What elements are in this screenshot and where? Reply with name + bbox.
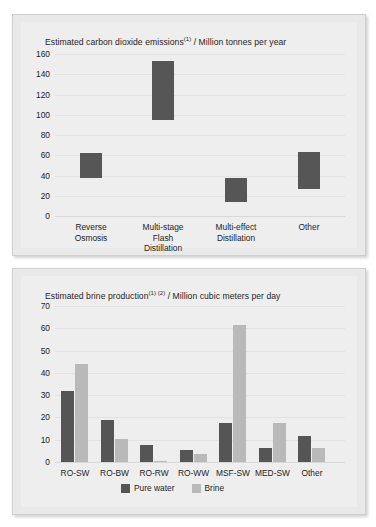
gridline bbox=[55, 95, 345, 96]
y-axis-tick-label: 80 bbox=[41, 130, 50, 140]
chart-title-brine-main: Estimated brine production bbox=[45, 291, 149, 301]
chart-title-co2-footnote: (1) bbox=[184, 36, 191, 42]
bar-brine bbox=[154, 461, 167, 462]
y-axis-tick-label: 160 bbox=[36, 49, 50, 59]
chart-title-brine-units: / Million cubic meters per day bbox=[168, 291, 281, 301]
chart-title-co2: Estimated carbon dioxide emissions(1) / … bbox=[45, 36, 286, 47]
legend-label: Brine bbox=[205, 483, 225, 493]
y-axis-tick-label: 0 bbox=[45, 457, 50, 467]
y-axis-tick-label: 30 bbox=[41, 390, 50, 400]
bar-brine bbox=[115, 439, 128, 462]
range-bar bbox=[152, 61, 174, 120]
y-axis-tick-label: 20 bbox=[41, 191, 50, 201]
x-label-multi-effect-distillation: Multi-effect Distillation bbox=[194, 222, 278, 243]
x-label-other: Other bbox=[282, 468, 342, 478]
x-axis-baseline bbox=[55, 462, 345, 463]
chart-legend-brine: Pure waterBrine bbox=[121, 483, 236, 493]
bar-group bbox=[180, 306, 208, 462]
bar-pure-water bbox=[140, 445, 153, 462]
y-axis-tick-label: 40 bbox=[41, 368, 50, 378]
y-axis-tick-label: 140 bbox=[36, 69, 50, 79]
chart-title-co2-main: Estimated carbon dioxide emissions bbox=[45, 37, 184, 47]
chart-title-brine: Estimated brine production(1) (2) / Mill… bbox=[45, 290, 280, 301]
legend-item: Brine bbox=[192, 483, 225, 493]
x-label-line: Distillation bbox=[121, 243, 205, 254]
y-axis-tick-label: 20 bbox=[41, 412, 50, 422]
x-axis-baseline bbox=[55, 216, 345, 217]
bar-group bbox=[140, 306, 168, 462]
x-label-line: Multi-effect bbox=[194, 222, 278, 233]
figure-page: Estimated carbon dioxide emissions(1) / … bbox=[0, 0, 376, 527]
legend-label: Pure water bbox=[134, 483, 175, 493]
bar-group bbox=[61, 306, 89, 462]
y-axis-tick-label: 60 bbox=[41, 150, 50, 160]
y-axis-tick-label: 120 bbox=[36, 90, 50, 100]
plot-area-brine: 706050403020100RO-SWRO-BWRO-RWRO-WWMSF-S… bbox=[55, 306, 345, 462]
legend-item: Pure water bbox=[121, 483, 175, 493]
chart-panel-brine-production: Estimated brine production(1) (2) / Mill… bbox=[12, 268, 366, 515]
chart-panel-brine-inner: Estimated brine production(1) (2) / Mill… bbox=[21, 276, 357, 507]
chart-panel-co2-inner: Estimated carbon dioxide emissions(1) / … bbox=[21, 22, 357, 248]
x-label-line: Distillation bbox=[194, 233, 278, 244]
chart-panel-co2-emissions: Estimated carbon dioxide emissions(1) / … bbox=[12, 14, 366, 256]
bar-pure-water bbox=[61, 391, 74, 462]
gridline bbox=[55, 115, 345, 116]
bar-pure-water bbox=[101, 420, 114, 462]
x-label-other: Other bbox=[267, 222, 351, 233]
chart-title-brine-footnote: (1) (2) bbox=[149, 290, 166, 296]
gridline bbox=[55, 54, 345, 55]
bar-pure-water bbox=[298, 436, 311, 462]
bar-group bbox=[259, 306, 287, 462]
x-label-multi-stage-flash-distillation: Multi-stage Flash Distillation bbox=[121, 222, 205, 254]
y-axis-tick-label: 40 bbox=[41, 171, 50, 181]
bar-brine bbox=[273, 423, 286, 462]
gridline bbox=[55, 196, 345, 197]
gridline bbox=[55, 74, 345, 75]
legend-swatch bbox=[121, 484, 130, 493]
x-label-line: Multi-stage bbox=[121, 222, 205, 233]
y-axis-tick-label: 0 bbox=[45, 211, 50, 221]
chart-title-co2-units: / Million tonnes per year bbox=[194, 37, 286, 47]
plot-area-co2: 160140120100806040200 bbox=[55, 54, 345, 216]
gridline bbox=[55, 135, 345, 136]
bar-brine bbox=[75, 364, 88, 462]
bar-group bbox=[101, 306, 129, 462]
bar-brine bbox=[312, 448, 325, 462]
bar-pure-water bbox=[259, 448, 272, 462]
bar-pure-water bbox=[180, 450, 193, 462]
y-axis-tick-label: 50 bbox=[41, 346, 50, 356]
y-axis-tick-label: 60 bbox=[41, 323, 50, 333]
range-bar bbox=[225, 178, 247, 202]
y-axis-tick-label: 10 bbox=[41, 435, 50, 445]
bar-brine bbox=[194, 454, 207, 462]
x-label-line: Other bbox=[267, 222, 351, 233]
range-bar bbox=[298, 152, 320, 188]
bar-group bbox=[219, 306, 247, 462]
bar-pure-water bbox=[219, 423, 232, 462]
y-axis-tick-label: 70 bbox=[41, 301, 50, 311]
bar-group bbox=[298, 306, 326, 462]
legend-swatch bbox=[192, 484, 201, 493]
y-axis-tick-label: 100 bbox=[36, 110, 50, 120]
bar-brine bbox=[233, 325, 246, 462]
x-label-line: Flash bbox=[121, 233, 205, 244]
range-bar bbox=[80, 153, 102, 177]
